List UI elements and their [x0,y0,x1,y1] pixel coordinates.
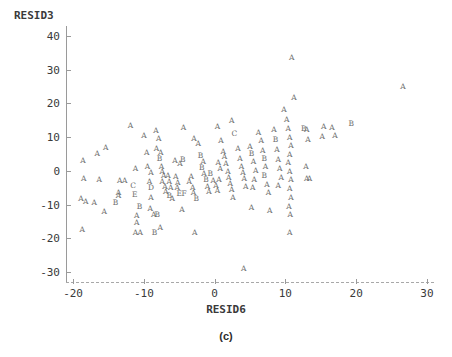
x-tick-label: -20 [48,287,98,301]
y-tick-label: 30 [14,64,60,76]
data-point-marker: A [229,194,237,202]
y-axis-title: RESID3 [14,9,54,22]
data-point-marker: C [230,130,238,138]
data-point-marker: D [147,184,155,192]
y-tick-label-text: 10 [16,131,60,144]
data-point-marker: B [347,120,355,128]
data-point-marker: A [93,150,101,158]
data-point-marker: A [179,124,187,132]
data-point-marker: A [304,136,312,144]
x-tick-label: 30 [402,287,452,301]
data-point-marker: F [180,190,188,198]
x-tick-label-text: -10 [119,287,169,300]
x-axis-title: RESID6 [0,303,452,316]
y-tick-label: -20 [14,232,60,244]
x-tick-label-text: 0 [190,287,240,300]
x-tick-label: 20 [331,287,381,301]
data-point-marker: A [100,208,108,216]
x-tick-label-text: -20 [48,287,98,300]
data-point-marker: A [249,184,257,192]
data-point-marker: A [78,226,86,234]
x-tick-label-text: 10 [260,287,310,300]
data-point-marker: A [318,133,326,141]
y-tick-label-text: 0 [16,165,60,178]
data-point-marker: B [192,195,200,203]
data-point-marker: A [215,176,223,184]
y-tick-label-text: 30 [16,64,60,77]
data-point-marker: A [126,122,134,130]
x-tick-label: 0 [190,287,240,301]
data-point-marker: A [136,229,144,237]
data-point-marker: A [194,140,202,148]
data-point-marker: E [131,191,139,199]
data-point-marker: A [147,169,155,177]
data-point-marker: A [305,175,313,183]
y-tick-label-text: 20 [16,97,60,110]
x-axis-line [66,282,434,283]
data-point-marker: A [178,206,186,214]
data-point-marker: A [79,157,87,165]
data-point-marker: A [80,175,88,183]
data-point-marker: A [102,144,110,152]
data-point-marker: A [217,137,225,145]
data-point-marker: A [273,146,281,154]
data-point-marker: A [213,123,221,131]
data-point-marker: B [153,211,161,219]
data-point-marker: A [399,83,407,91]
data-point-marker: A [234,145,242,153]
data-point-marker: A [187,173,195,181]
data-point-marker: A [286,229,294,237]
data-point-marker: A [288,54,296,62]
data-point-marker: A [121,177,129,185]
y-tick-label: -10 [14,199,60,211]
y-tick-label: -30 [14,266,60,278]
y-tick-label: 20 [14,97,60,109]
y-tick-label: 10 [14,131,60,143]
data-point-marker: A [140,132,148,140]
x-tick-label: 10 [260,287,310,301]
data-point-marker: A [143,149,151,157]
x-tick-label: -10 [119,287,169,301]
x-tick-label-text: 20 [331,287,381,300]
data-point-marker: A [303,126,311,134]
data-point-marker: A [156,224,164,232]
x-tick-label-text: 30 [402,287,452,300]
data-point-marker: A [264,189,272,197]
data-point-marker: A [191,229,199,237]
y-tick-label-text: -30 [16,266,60,279]
data-point-marker: A [228,117,236,125]
y-tick-label-text: 40 [16,30,60,43]
y-tick-label: 40 [14,30,60,42]
data-point-marker: B [112,199,120,207]
data-point-marker: A [286,211,294,219]
data-point-marker: A [274,156,282,164]
data-point-marker: A [213,187,221,195]
data-point-marker: A [155,135,163,143]
data-point-marker: A [302,163,310,171]
data-point-marker: C [129,182,137,190]
data-point-marker: A [320,123,328,131]
data-point-marker: A [133,219,141,227]
data-point-marker: A [280,106,288,114]
data-point-marker: A [90,199,98,207]
data-point-marker: A [274,182,282,190]
data-point-marker: A [257,137,265,145]
data-point-marker: B [271,136,279,144]
data-point-marker: B [136,203,144,211]
y-tick-label-text: -10 [16,199,60,212]
data-point-marker: A [270,126,278,134]
data-point-marker: B [179,156,187,164]
y-tick-label-text: -20 [16,232,60,245]
data-point-marker: A [147,194,155,202]
data-point-marker: A [240,265,248,273]
data-point-marker: A [247,204,255,212]
y-tick-label: 0 [14,165,60,177]
data-point-marker: A [266,207,274,215]
data-point-marker: A [95,176,103,184]
data-point-marker: A [290,94,298,102]
figure-caption: (c) [0,330,452,342]
data-point-marker: A [82,198,90,206]
scatter-plot-figure: RESID3 -30-20-10010203040 -20-100102030 … [0,0,452,357]
data-point-marker: A [331,132,339,140]
data-point-marker: A [131,165,139,173]
